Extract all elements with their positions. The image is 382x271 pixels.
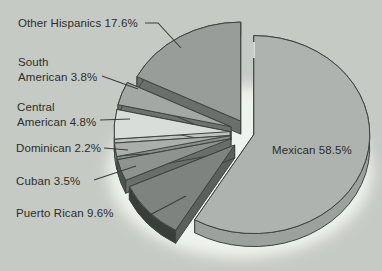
slice-label-mexican: Mexican 58.5% — [272, 143, 352, 158]
slice-label-dominican: Dominican 2.2% — [16, 141, 101, 156]
slice-label-puerto-rican: Puerto Rican 9.6% — [16, 206, 114, 221]
slice-label-central-american: Central American 4.8% — [17, 100, 96, 130]
slice-label-other-hispanics: Other Hispanics 17.6% — [18, 16, 138, 31]
slice-label-south-american: South American 3.8% — [18, 55, 97, 85]
leader-line-south-american — [102, 76, 138, 89]
chart-area: Mexican 58.5%Puerto Rican 9.6%Cuban 3.5%… — [0, 0, 382, 271]
slice-label-cuban: Cuban 3.5% — [16, 174, 80, 189]
pie-chart — [0, 0, 382, 271]
